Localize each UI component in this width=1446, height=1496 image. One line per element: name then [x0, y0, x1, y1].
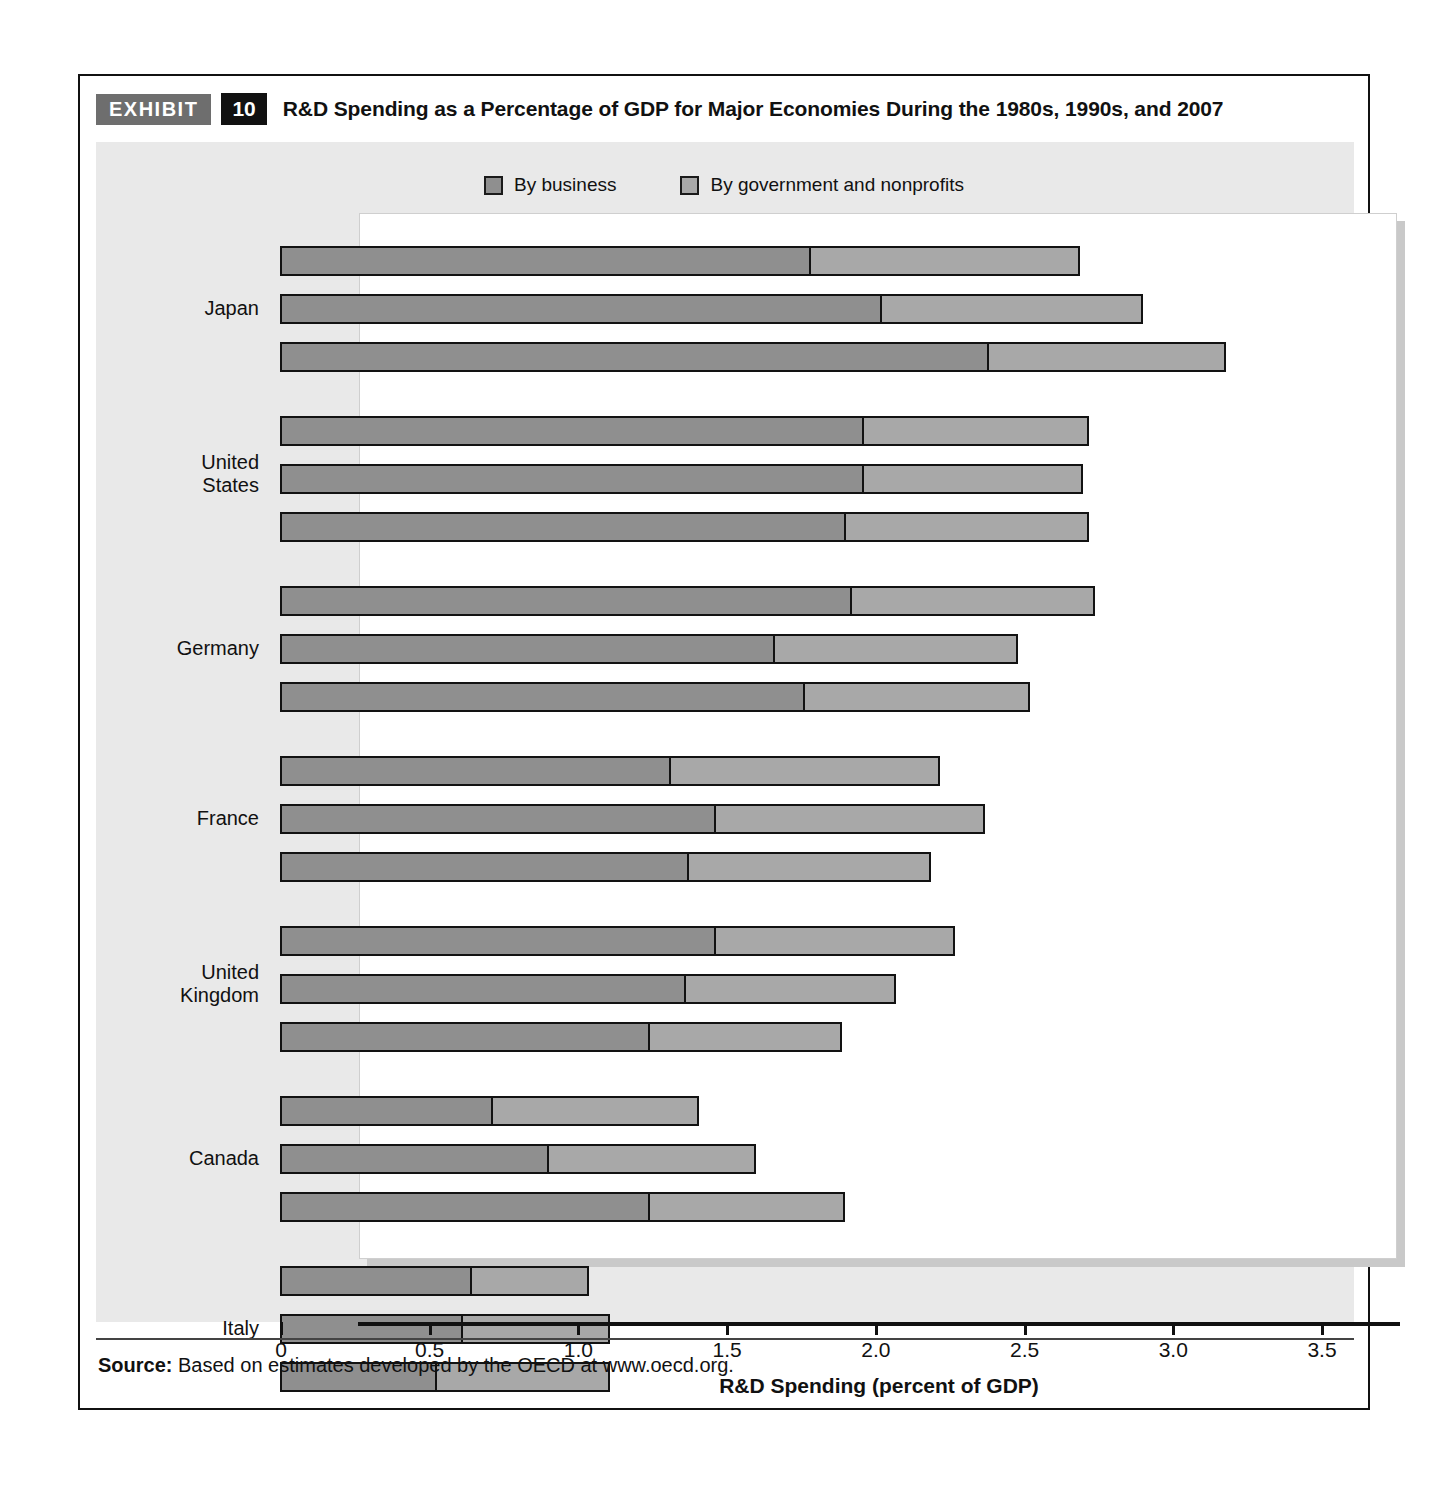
- bar-segment-business: [282, 466, 862, 492]
- bar-france-2007[interactable]: [280, 852, 931, 882]
- bar-segment-government: [862, 466, 1081, 492]
- x-tick-0.5: [429, 1322, 432, 1335]
- bar-segment-business: [282, 684, 803, 710]
- x-tick-label-3.5: 3.5: [1307, 1338, 1336, 1362]
- x-tick-1.5: [726, 1322, 729, 1335]
- x-tick-2.5: [1024, 1322, 1027, 1335]
- bar-segment-business: [282, 636, 773, 662]
- bar-segment-business: [282, 1146, 547, 1172]
- bar-germany-2007[interactable]: [280, 682, 1030, 712]
- bar-segment-business: [282, 1024, 648, 1050]
- bar-segment-government: [862, 418, 1087, 444]
- bar-united-kingdom-1990s[interactable]: [280, 974, 896, 1004]
- bar-united-states-1980s[interactable]: [280, 416, 1089, 446]
- bar-segment-government: [987, 344, 1224, 370]
- source-divider: [96, 1338, 1354, 1340]
- source-note: Source: Based on estimates developed by …: [98, 1354, 734, 1377]
- bar-segment-government: [880, 296, 1141, 322]
- x-tick-3.5: [1321, 1322, 1324, 1335]
- bar-canada-1990s[interactable]: [280, 1144, 756, 1174]
- x-tick-label-2.0: 2.0: [861, 1338, 890, 1362]
- bar-segment-business: [282, 1194, 648, 1220]
- source-label: Source:: [98, 1354, 172, 1376]
- bar-segment-government: [687, 854, 929, 880]
- bar-segment-government: [714, 928, 954, 954]
- bar-segment-government: [809, 248, 1078, 274]
- bar-segment-business: [282, 588, 850, 614]
- bar-japan-2007[interactable]: [280, 342, 1226, 372]
- exhibit-page: EXHIBIT 10 R&D Spending as a Percentage …: [0, 0, 1446, 1496]
- x-tick-2.0: [875, 1322, 878, 1335]
- x-axis-line: [358, 1322, 1400, 1326]
- bar-segment-government: [648, 1024, 840, 1050]
- bar-segment-government: [850, 588, 1093, 614]
- exhibit-frame: EXHIBIT 10 R&D Spending as a Percentage …: [78, 74, 1370, 1410]
- x-tick-label-2.5: 2.5: [1010, 1338, 1039, 1362]
- bar-italy-1980s[interactable]: [280, 1266, 589, 1296]
- bar-segment-business: [282, 806, 714, 832]
- bar-segment-business: [282, 854, 687, 880]
- bar-segment-business: [282, 248, 809, 274]
- bar-segment-business: [282, 976, 684, 1002]
- bar-germany-1990s[interactable]: [280, 634, 1018, 664]
- bar-segment-government: [470, 1268, 587, 1294]
- bar-segment-government: [803, 684, 1028, 710]
- bar-france-1990s[interactable]: [280, 804, 985, 834]
- bar-canada-1980s[interactable]: [280, 1096, 699, 1126]
- bar-segment-business: [282, 514, 844, 540]
- bar-segment-government: [684, 976, 894, 1002]
- bar-segment-business: [282, 1098, 491, 1124]
- bar-japan-1980s[interactable]: [280, 246, 1080, 276]
- x-tick-label-3.0: 3.0: [1159, 1338, 1188, 1362]
- bar-france-1980s[interactable]: [280, 756, 940, 786]
- bar-united-kingdom-1980s[interactable]: [280, 926, 955, 956]
- x-axis-title: R&D Spending (percent of GDP): [358, 1374, 1400, 1398]
- x-tick-1.0: [577, 1322, 580, 1335]
- bar-segment-business: [282, 418, 862, 444]
- bar-segment-business: [282, 344, 987, 370]
- bar-united-states-1990s[interactable]: [280, 464, 1083, 494]
- bar-segment-government: [844, 514, 1087, 540]
- bar-canada-2007[interactable]: [280, 1192, 845, 1222]
- bar-united-states-2007[interactable]: [280, 512, 1089, 542]
- bar-japan-1990s[interactable]: [280, 294, 1143, 324]
- bar-united-kingdom-2007[interactable]: [280, 1022, 842, 1052]
- bar-segment-business: [282, 928, 714, 954]
- x-tick-0: [280, 1322, 283, 1335]
- bar-segment-business: [282, 1268, 470, 1294]
- bar-segment-government: [491, 1098, 697, 1124]
- bar-segment-business: [282, 758, 669, 784]
- x-tick-3.0: [1172, 1322, 1175, 1335]
- bars-layer: [80, 76, 1368, 1408]
- bar-segment-government: [648, 1194, 843, 1220]
- source-body: Based on estimates developed by the OECD…: [172, 1354, 733, 1376]
- bar-segment-government: [773, 636, 1016, 662]
- bar-segment-business: [282, 296, 880, 322]
- bar-segment-government: [547, 1146, 753, 1172]
- bar-segment-government: [669, 758, 938, 784]
- bar-germany-1980s[interactable]: [280, 586, 1095, 616]
- bar-segment-government: [714, 806, 983, 832]
